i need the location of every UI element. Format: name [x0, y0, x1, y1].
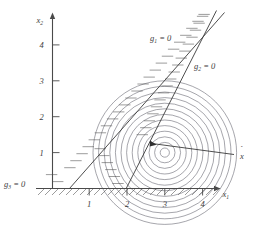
g2-boundary-line	[126, 11, 216, 189]
hatch-tick	[43, 188, 52, 197]
hatch-tick	[183, 188, 192, 197]
contour-circle	[115, 103, 214, 202]
y-tick-label-1: 1	[39, 148, 43, 158]
hatch-tick	[99, 188, 108, 197]
contour-circle	[132, 120, 197, 185]
contour-circle	[160, 148, 169, 157]
hatch-tick	[64, 188, 73, 197]
hatch-tick	[141, 188, 150, 197]
y-axis-label: x2	[36, 15, 44, 26]
hatch-tick	[176, 188, 185, 197]
g3-label: g3 = 0	[4, 179, 26, 190]
hatch-tick	[120, 188, 129, 197]
g1-hatching	[46, 14, 210, 181]
contour-circle	[149, 137, 181, 169]
optimization-figure: x2 x1 1 2 3 4 1 2 3 4 g1 = 0 g2 = 0 g3 =…	[0, 0, 262, 228]
hatch-tick	[190, 188, 199, 197]
hatch-tick	[36, 188, 45, 197]
contour-circle	[138, 126, 192, 180]
x-axis-label: x1	[222, 189, 230, 200]
hatch-tick	[197, 188, 206, 197]
hatch-tick	[162, 188, 171, 197]
hatch-tick	[92, 188, 101, 197]
y-tick-label-4: 4	[39, 40, 44, 50]
hatch-tick	[57, 188, 66, 197]
g2-label: g2 = 0	[194, 61, 216, 72]
contour-circle	[121, 109, 209, 197]
g1-boundary-line	[70, 13, 225, 189]
x-tick-label-4: 4	[200, 199, 205, 209]
solution-point-label: x	[239, 151, 244, 161]
g3-hatching	[36, 188, 220, 197]
g1-label: g1 = 0	[150, 33, 172, 44]
x-tick-label-2: 2	[125, 199, 130, 209]
contour-circle	[143, 131, 186, 174]
y-tick-label-2: 2	[39, 112, 44, 122]
solution-pointer-line	[152, 144, 234, 155]
hatch-tick	[71, 188, 80, 197]
plot-canvas: x2 x1 1 2 3 4 1 2 3 4 g1 = 0 g2 = 0 g3 =…	[0, 0, 262, 228]
hatch-tick	[50, 188, 59, 197]
labels: x2 x1 1 2 3 4 1 2 3 4 g1 = 0 g2 = 0 g3 =…	[4, 15, 244, 209]
y-tick-label-3: 3	[38, 76, 43, 86]
x-tick-label-1: 1	[87, 199, 91, 209]
hatch-tick	[78, 188, 87, 197]
x-tick-label-3: 3	[162, 199, 167, 209]
y-axis-arrowhead	[50, 13, 55, 20]
g1-constraint	[46, 13, 225, 189]
